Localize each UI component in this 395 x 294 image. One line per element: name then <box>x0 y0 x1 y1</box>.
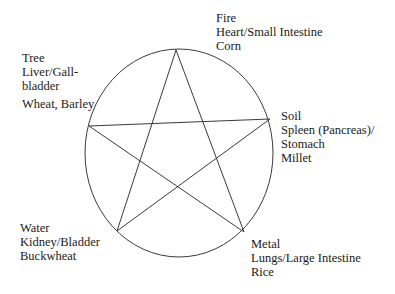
soil-grain: Millet <box>281 151 374 165</box>
metal-name: Metal <box>251 237 361 251</box>
soil-organs-line2: Stomach <box>281 137 374 151</box>
soil-element-label: Soil Spleen (Pancreas)/ Stomach Millet <box>281 109 374 165</box>
soil-organs-line1: Spleen (Pancreas)/ <box>281 123 374 137</box>
outer-circle <box>85 49 273 257</box>
fire-name: Fire <box>216 11 323 25</box>
soil-name: Soil <box>281 109 374 123</box>
tree-element-label: Tree Liver/Gall- bladder Wheat, Barley <box>22 51 94 111</box>
water-element-label: Water Kidney/Bladder Buckwheat <box>20 221 100 263</box>
tree-name: Tree <box>22 51 94 65</box>
water-name: Water <box>20 221 100 235</box>
fire-element-label: Fire Heart/Small Intestine Corn <box>216 11 323 53</box>
metal-element-label: Metal Lungs/Large Intestine Rice <box>251 237 361 279</box>
tree-organs-line2: bladder <box>22 79 94 93</box>
metal-organs: Lungs/Large Intestine <box>251 251 361 265</box>
metal-grain: Rice <box>251 265 361 279</box>
water-grain: Buckwheat <box>20 249 100 263</box>
tree-grain: Wheat, Barley <box>22 97 94 111</box>
fire-grain: Corn <box>216 39 323 53</box>
water-organs: Kidney/Bladder <box>20 235 100 249</box>
tree-organs-line1: Liver/Gall- <box>22 65 94 79</box>
fire-organs: Heart/Small Intestine <box>216 25 323 39</box>
